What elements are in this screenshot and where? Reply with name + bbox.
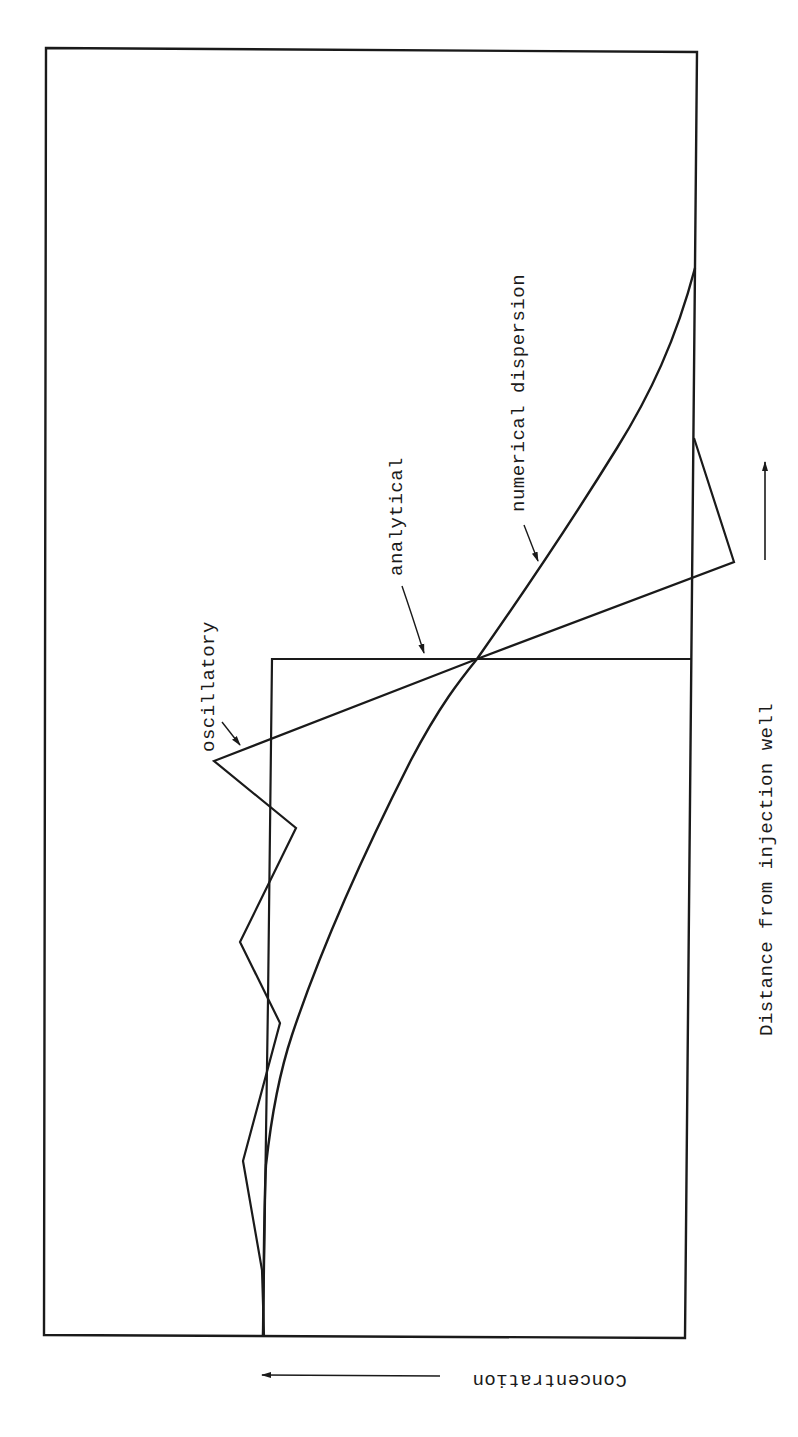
plot-frame [44,48,697,1338]
plot-svg [0,0,798,1437]
concentration-direction-arrow [262,1375,440,1376]
numerical-dispersion-pointer-arrow [524,525,538,561]
distance-axis-label: Distance from injection well [758,703,777,1036]
oscillatory-pointer-arrow [222,722,240,745]
oscillatory-label: oscillatory [200,621,219,752]
concentration-axis-label: Concentration [472,1370,627,1389]
analytical-curve [263,659,692,1336]
concentration-front-figure: oscillatory analytical numerical dispers… [0,0,798,1437]
oscillatory-curve [214,438,734,1336]
analytical-pointer-arrow [402,586,424,653]
analytical-label: analytical [388,457,407,576]
numerical-dispersion-curve [263,268,695,1336]
numerical-dispersion-label: numerical dispersion [510,274,529,512]
